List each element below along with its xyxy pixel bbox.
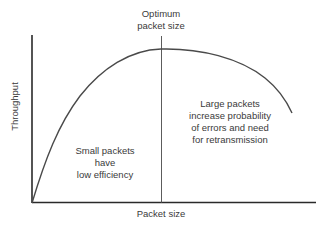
large-annotation-line2: increase probability	[170, 110, 290, 122]
small-annotation-line1: Small packets	[55, 145, 155, 157]
small-packets-annotation: Small packets have low efficiency	[55, 145, 155, 181]
optimum-label: Optimum packet size	[121, 8, 201, 32]
large-annotation-line1: Large packets	[170, 98, 290, 110]
y-axis-label: Throughput	[9, 77, 20, 137]
small-annotation-line2: have	[55, 157, 155, 169]
large-annotation-line4: for retransmission	[170, 134, 290, 146]
x-axis-label: Packet size	[111, 208, 211, 220]
x-axis-label-text: Packet size	[137, 208, 186, 219]
large-packets-annotation: Large packets increase probability of er…	[170, 98, 290, 146]
large-annotation-line3: of errors and need	[170, 122, 290, 134]
optimum-label-line2: packet size	[121, 20, 201, 32]
small-annotation-line3: low efficiency	[55, 169, 155, 181]
optimum-label-line1: Optimum	[121, 8, 201, 20]
